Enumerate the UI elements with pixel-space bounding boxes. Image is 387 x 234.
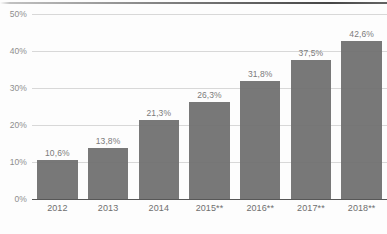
bar [291,60,332,199]
bar [189,102,230,199]
bar-group: 10,6%201213,8%201321,3%201426,3%2015**31… [32,14,387,199]
bar-value-label: 37,5% [299,48,324,58]
bar [341,41,382,199]
bar-slot: 37,5%2017** [291,14,332,199]
x-axis-category-label: 2017** [297,203,325,213]
bar-slot: 42,6%2018** [341,14,382,199]
bar [88,148,129,199]
x-axis-category-label: 2013 [98,203,118,213]
x-axis-category-label: 2015** [196,203,224,213]
x-axis-category-label: 2016** [246,203,274,213]
bar-slot: 10,6%2012 [37,14,78,199]
bar-value-label: 13,8% [96,136,121,146]
bar-value-label: 42,6% [349,29,374,39]
bar [139,120,180,199]
y-axis-tick-label: 40% [10,46,27,56]
y-axis-tick-label: 10% [10,157,27,167]
y-axis-tick-label: 50% [10,9,27,19]
y-axis-tick-label: 20% [10,120,27,130]
bar-value-label: 31,8% [248,69,273,79]
bar-chart: 0%10%20%30%40%50% 10,6%201213,8%201321,3… [0,0,387,234]
bar-slot: 31,8%2016** [240,14,281,199]
bar [240,81,281,199]
x-axis-category-label: 2014 [149,203,169,213]
bar-value-label: 21,3% [146,108,171,118]
bar-slot: 21,3%2014 [139,14,180,199]
bar-slot: 26,3%2015** [189,14,230,199]
bar-value-label: 26,3% [197,90,222,100]
y-axis-tick-label: 30% [10,83,27,93]
bar-slot: 13,8%2013 [88,14,129,199]
scan-artifact-line [0,2,387,4]
axis-baseline [32,199,387,200]
plot-area: 0%10%20%30%40%50% 10,6%201213,8%201321,3… [32,14,387,199]
bar-value-label: 10,6% [45,148,70,158]
y-axis-tick-label: 0% [15,194,28,204]
x-axis-category-label: 2018** [348,203,376,213]
x-axis-category-label: 2012 [47,203,67,213]
bar [37,160,78,199]
